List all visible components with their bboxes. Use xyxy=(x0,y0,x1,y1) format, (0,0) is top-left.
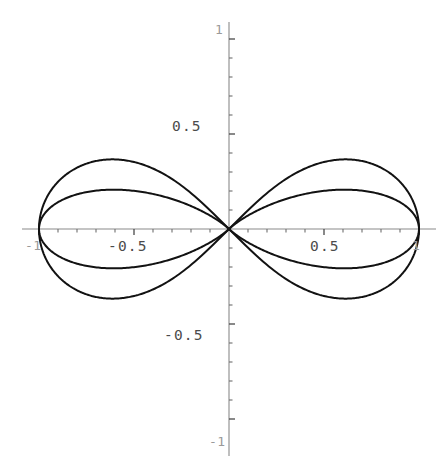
y-axis-tick-label-positive-half: 0.5 xyxy=(172,118,202,134)
y-axis-tick-label-negative-one: -1 xyxy=(209,434,226,449)
x-axis-tick-label-negative-one: -1 xyxy=(25,238,42,253)
x-axis-tick-label-negative-half: -0.5 xyxy=(108,238,148,254)
axes-group xyxy=(22,22,436,456)
x-axis-tick-label-positive-half: 0.5 xyxy=(310,238,340,254)
y-axis-tick-label-negative-half: -0.5 xyxy=(164,327,204,343)
polar-plot-figure: 0.5 -0.5 1 -1 0.5 -0.5 1 -1 xyxy=(0,0,446,466)
polar-plot-canvas xyxy=(0,0,446,466)
x-axis-tick-label-positive-one: 1 xyxy=(412,238,420,253)
y-axis-tick-label-positive-one: 1 xyxy=(215,22,223,37)
